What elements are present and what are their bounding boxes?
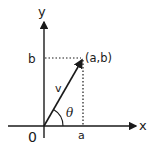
angle-arc	[54, 110, 64, 127]
vector-label: v	[55, 82, 62, 95]
b-label: b	[28, 52, 36, 66]
theta-label: θ	[66, 106, 74, 120]
diagram-svg: y x 0 b a (a,b) v θ	[0, 0, 152, 148]
vector-v	[44, 60, 82, 126]
x-axis-label: x	[139, 118, 147, 133]
vector-diagram: y x 0 b a (a,b) v θ	[0, 0, 152, 148]
origin-label: 0	[28, 129, 37, 145]
point-label: (a,b)	[85, 51, 112, 65]
a-label: a	[78, 129, 85, 142]
y-axis-label: y	[38, 4, 46, 19]
